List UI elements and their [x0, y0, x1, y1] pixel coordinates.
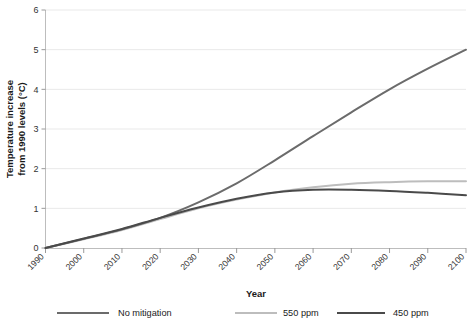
y-tick-label-2: 2 [33, 164, 38, 174]
y-tick-label-5: 5 [33, 45, 38, 55]
chart-svg: 0123456 19902000201020202030204020502060… [0, 0, 473, 327]
legend-label: 550 ppm [283, 308, 319, 318]
chart-background [0, 0, 473, 327]
y-tick-label-3: 3 [33, 124, 38, 134]
y-axis-title-line1: Temperature increase [4, 80, 15, 178]
y-axis-title: Temperature increase from 1990 levels (°… [4, 80, 27, 178]
legend-label: No mitigation [118, 308, 172, 318]
legend-label: 450 ppm [393, 308, 429, 318]
y-tick-label-1: 1 [33, 204, 38, 214]
x-axis-title: Year [246, 288, 266, 299]
y-tick-label-6: 6 [33, 5, 38, 15]
y-axis-title-line2: from 1990 levels (°C) [16, 82, 27, 176]
y-tick-label-4: 4 [33, 85, 38, 95]
temperature-projection-chart: 0123456 19902000201020202030204020502060… [0, 0, 473, 327]
